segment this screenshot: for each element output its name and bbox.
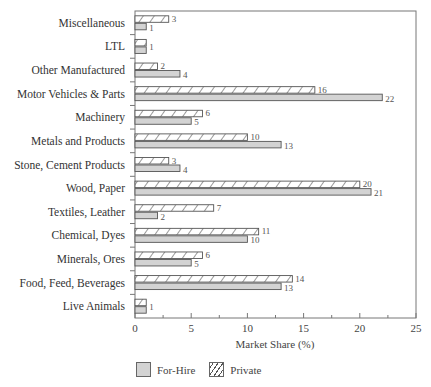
legend-item-for-hire: For-Hire (136, 362, 195, 377)
category-label: Chemical, Dyes (52, 229, 126, 242)
x-tick-label: 25 (411, 322, 423, 334)
bar-value-label-private: 3 (172, 156, 177, 166)
x-tick-label: 10 (242, 322, 254, 334)
bar-for-hire (135, 189, 371, 196)
bar-value-label-for-hire: 5 (194, 117, 199, 127)
private-swatch-icon (209, 362, 224, 377)
bar-value-label: 1 (149, 302, 154, 312)
plot-frame (135, 11, 416, 318)
category-label: Motor Vehicles & Parts (17, 88, 126, 100)
for-hire-swatch-icon (136, 362, 151, 377)
bar-value-label-private: 16 (318, 85, 328, 95)
bar-value-label-for-hire: 10 (250, 235, 260, 245)
bar-private (135, 110, 202, 117)
bar-private (135, 63, 157, 70)
x-tick-label: 5 (188, 322, 194, 334)
bar-value-label-private: 3 (172, 14, 177, 24)
category-label: Machinery (75, 111, 125, 124)
category-label: Live Animals (63, 300, 126, 312)
bar-value-label-for-hire: 13 (284, 141, 294, 151)
bar-private (135, 87, 315, 94)
bar-for-hire (135, 23, 146, 30)
plot-area: 0510152025Miscellaneous31LTL1Other Manuf… (14, 11, 422, 334)
bar-value-label-for-hire: 4 (183, 165, 188, 175)
bar-for-hire (135, 307, 146, 314)
bar-value-label-for-hire: 4 (183, 70, 188, 80)
bar-chart: 0510152025Miscellaneous31LTL1Other Manuf… (0, 0, 431, 387)
bar-value-label-for-hire: 13 (284, 283, 294, 293)
bar-for-hire (135, 118, 191, 125)
category-label: LTL (105, 40, 125, 52)
bar-for-hire (135, 141, 281, 148)
legend: For-Hire Private (136, 362, 261, 377)
category-label: Other Manufactured (31, 64, 125, 76)
bar-value-label-for-hire: 1 (149, 23, 154, 33)
bar-value-label-for-hire: 21 (374, 188, 383, 198)
category-label: Textiles, Leather (48, 206, 125, 219)
bar-private (135, 134, 247, 141)
category-label: Metals and Products (31, 135, 125, 147)
bar-value-label-for-hire: 2 (160, 212, 165, 222)
bar-for-hire (135, 236, 247, 243)
bar-private (135, 181, 360, 188)
bar-value-label-private: 6 (205, 108, 210, 118)
x-tick-label: 20 (354, 322, 366, 334)
bar-value-label-for-hire: 5 (194, 259, 199, 269)
bar-value-label-for-hire: 22 (385, 94, 394, 104)
legend-item-private: Private (209, 362, 261, 377)
category-label: Food, Feed, Beverages (20, 277, 126, 290)
bar-value-label: 1 (149, 42, 154, 52)
bar-value-label-private: 14 (295, 274, 305, 284)
bar-for-hire (135, 165, 180, 172)
bar-value-label-private: 11 (262, 226, 271, 236)
bar-for-hire (135, 94, 382, 101)
bar-for-hire (135, 71, 180, 78)
bar-private (135, 39, 146, 46)
bar-value-label-private: 2 (160, 61, 165, 71)
bar-value-label-private: 6 (205, 250, 210, 260)
bar-private (135, 158, 169, 165)
bar-private (135, 299, 146, 306)
bar-value-label-private: 20 (363, 179, 373, 189)
bar-value-label-private: 10 (250, 132, 260, 142)
bar-private (135, 276, 292, 283)
category-label: Minerals, Ores (57, 253, 126, 266)
bar-private (135, 16, 169, 23)
x-tick-label: 0 (132, 322, 138, 334)
bar-for-hire (135, 283, 281, 290)
bar-value-label-private: 7 (217, 203, 222, 213)
category-label: Miscellaneous (59, 17, 126, 29)
bar-for-hire (135, 212, 157, 219)
bar-for-hire (135, 47, 146, 54)
bar-for-hire (135, 259, 191, 266)
bar-private (135, 228, 259, 235)
bar-private (135, 252, 202, 259)
legend-label-private: Private (230, 364, 261, 376)
category-label: Wood, Paper (66, 182, 125, 195)
x-axis-title: Market Share (%) (236, 338, 315, 351)
legend-label-for-hire: For-Hire (157, 364, 195, 376)
category-label: Stone, Cement Products (14, 159, 125, 172)
x-tick-label: 15 (298, 322, 310, 334)
bar-private (135, 205, 214, 212)
